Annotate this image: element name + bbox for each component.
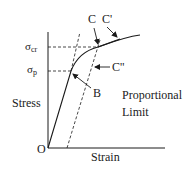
sigma-cr-label: σcr (25, 40, 37, 54)
elastic-extension-dashed-line (71, 32, 80, 71)
point-c-label: C (88, 12, 96, 26)
point-b-label: B (93, 86, 101, 100)
annotation-line1: Proportional (122, 88, 183, 102)
arrow-c-prime-icon (107, 27, 117, 37)
point-c-prime-label: C' (102, 12, 112, 26)
tangent-segment (98, 39, 120, 47)
arrow-c-icon (94, 28, 98, 44)
annotation-line2: Limit (122, 105, 149, 119)
origin-label: O (37, 142, 46, 156)
x-axis-label: Strain (91, 150, 120, 164)
y-axis-label: Stress (12, 96, 41, 110)
stress-strain-diagram: σcr σp C C' C'' B Stress Strain O Propor… (0, 0, 196, 169)
point-c-double-prime-label: C'' (112, 60, 124, 74)
sigma-p-label: σp (27, 63, 37, 77)
arrow-b-icon (73, 74, 91, 88)
